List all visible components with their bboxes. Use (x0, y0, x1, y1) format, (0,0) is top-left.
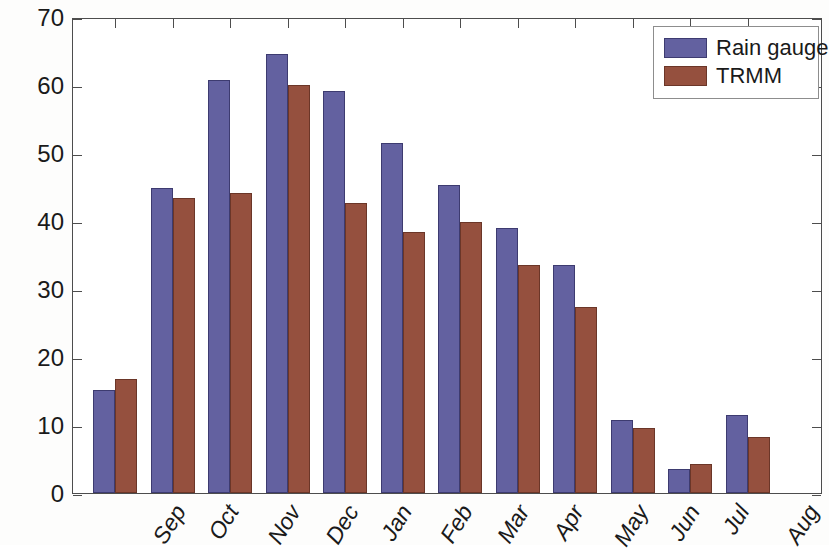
x-axis-tick-label: Sep (147, 500, 192, 549)
bar-jul-rain-gauge (668, 469, 690, 493)
bar-nov-trmm (230, 193, 252, 493)
x-axis-tick-label: Feb (434, 500, 478, 548)
y-axis-tick-label: 10 (4, 412, 64, 440)
y-axis-tick-label: 50 (4, 140, 64, 168)
legend-swatch (664, 66, 707, 86)
x-axis-tick-label: Jun (663, 500, 706, 546)
bar-dec-trmm (288, 85, 310, 493)
x-axis-tick-label: Jul (717, 500, 755, 539)
x-axis-tick-mark-top (288, 19, 289, 28)
x-axis-tick-mark-top (575, 19, 576, 28)
bar-oct-trmm (173, 198, 195, 493)
x-axis-tick-label: Nov (262, 500, 307, 549)
y-axis-tick-mark (73, 155, 82, 156)
bar-jun-rain-gauge (611, 420, 633, 493)
bar-feb-trmm (403, 232, 425, 493)
bar-mar-trmm (460, 222, 482, 493)
x-axis-tick-label: Dec (320, 500, 365, 549)
bar-aug-rain-gauge (726, 415, 748, 493)
y-axis-tick-label: 30 (4, 276, 64, 304)
x-axis-tick-label: May (608, 500, 654, 551)
y-axis-tick-mark-right (812, 495, 821, 496)
y-axis-tick-mark (73, 495, 82, 496)
y-axis-tick-mark (73, 87, 82, 88)
bar-may-trmm (575, 307, 597, 493)
bar-jul-trmm (690, 464, 712, 493)
legend-entry: TRMM (664, 62, 810, 90)
bar-mar-rain-gauge (438, 185, 460, 493)
x-axis-tick-label: Mar (492, 500, 536, 548)
bar-sep-rain-gauge (93, 390, 115, 493)
bar-nov-rain-gauge (208, 80, 230, 493)
bar-jan-rain-gauge (323, 91, 345, 493)
y-axis-tick-label: 20 (4, 344, 64, 372)
x-axis-tick-mark-top (173, 19, 174, 28)
y-axis-tick-label: 60 (4, 72, 64, 100)
x-axis-tick-mark-top (633, 19, 634, 28)
y-axis-tick-mark-right (812, 223, 821, 224)
legend-entry: Rain gauge (664, 34, 810, 62)
bar-sep-trmm (115, 379, 137, 493)
y-axis-tick-mark (73, 359, 82, 360)
legend-entries: Rain gaugeTRMM (664, 34, 810, 90)
y-axis-tick-mark-right (812, 155, 821, 156)
y-axis-tick-label: 40 (4, 208, 64, 236)
y-axis-tick-mark-right (812, 291, 821, 292)
legend-label: TRMM (716, 63, 782, 89)
x-axis-tick-label: Aug (780, 500, 825, 549)
x-axis-tick-mark-top (403, 19, 404, 28)
x-axis-tick-label: Apr (547, 500, 589, 545)
x-axis-tick-mark-top (345, 19, 346, 28)
legend-label: Rain gauge (716, 35, 829, 61)
y-axis-tick-mark-right (812, 359, 821, 360)
x-axis-tick-mark-top (460, 19, 461, 28)
bar-apr-rain-gauge (496, 228, 518, 493)
bar-may-rain-gauge (553, 265, 575, 493)
bar-oct-rain-gauge (151, 188, 173, 493)
chart-legend: Rain gaugeTRMM (653, 26, 819, 99)
y-axis-tick-mark (73, 291, 82, 292)
x-axis-tick-label: Oct (202, 500, 244, 545)
x-axis-tick-mark-top (115, 19, 116, 28)
x-axis-tick-mark-top (518, 19, 519, 28)
y-axis-tick-mark (73, 19, 82, 20)
bar-apr-trmm (518, 265, 540, 493)
y-axis-tick-mark (73, 223, 82, 224)
x-axis-tick-mark-top (230, 19, 231, 28)
bar-aug-trmm (748, 437, 770, 493)
y-axis-tick-mark (73, 427, 82, 428)
legend-swatch (664, 38, 707, 58)
bar-jan-trmm (345, 203, 367, 493)
y-axis-tick-label: 70 (4, 4, 64, 32)
y-axis-tick-mark-right (812, 19, 821, 20)
bar-jun-trmm (633, 428, 655, 493)
bar-dec-rain-gauge (266, 54, 288, 493)
bar-feb-rain-gauge (381, 143, 403, 493)
y-axis-tick-label: 0 (4, 480, 64, 508)
y-axis-tick-mark-right (812, 427, 821, 428)
x-axis-tick-label: Jan (375, 500, 418, 546)
